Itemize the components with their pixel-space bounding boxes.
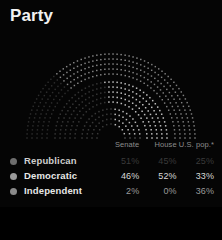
arc-dot	[124, 54, 125, 55]
arc-dot	[60, 83, 61, 84]
arc-dot	[146, 133, 148, 135]
party-color-dot-icon	[10, 173, 17, 180]
arc-dot	[88, 77, 89, 78]
arc-dot	[108, 81, 110, 83]
arc-dot	[171, 95, 172, 96]
arc-dot	[151, 64, 152, 65]
arc-dot	[120, 54, 121, 55]
arc-dot	[84, 68, 85, 69]
arc-dot	[112, 53, 113, 54]
legend-row[interactable]: Republican51%45%25%	[10, 153, 214, 168]
arc-dot	[124, 137, 126, 139]
arc-dot	[80, 117, 82, 119]
arc-dot	[87, 133, 89, 135]
arc-dot	[81, 95, 83, 97]
arc-dot	[132, 77, 133, 78]
arc-dot	[31, 133, 32, 134]
party-color-dot-icon	[10, 158, 17, 165]
arc-dot	[47, 82, 48, 83]
arc-dot	[42, 109, 43, 110]
arc-dot	[175, 92, 176, 93]
arc-dot	[43, 106, 44, 107]
arc-dot	[64, 93, 65, 94]
arc-dot	[45, 102, 46, 103]
arc-dot	[57, 79, 58, 80]
arc-dot	[108, 96, 110, 98]
arc-dot	[120, 74, 121, 75]
arc-dot	[59, 133, 61, 135]
arc-dot	[169, 92, 170, 93]
arc-dot	[96, 94, 98, 96]
arc-dot	[43, 121, 44, 122]
arc-dot	[53, 99, 54, 100]
arc-dot	[69, 117, 71, 119]
arc-dot	[153, 110, 155, 112]
arc-dot	[116, 97, 118, 99]
arc-dot	[95, 119, 97, 121]
arc-dot	[148, 121, 150, 123]
arc-dot	[106, 109, 108, 111]
arc-dot	[112, 63, 113, 64]
arc-dot	[112, 58, 113, 59]
legend-value-us-pop: 36%	[177, 183, 214, 198]
arc-dot	[66, 125, 68, 127]
arc-dot	[150, 114, 152, 116]
arc-dot	[41, 137, 42, 138]
party-legend: Senate House U.S. pop.* Republican51%45%…	[0, 140, 222, 198]
arc-dot	[174, 129, 175, 130]
arc-dot	[54, 133, 56, 135]
party-name: Democratic	[24, 170, 77, 181]
arc-dot	[145, 129, 147, 131]
arc-dot	[47, 99, 48, 100]
arc-dot	[154, 84, 155, 85]
arc-dot	[61, 89, 62, 90]
column-header-house: House	[139, 140, 176, 153]
arc-dot	[125, 125, 127, 127]
arc-dot	[97, 133, 99, 135]
arc-dot	[140, 117, 142, 119]
arc-dot	[161, 129, 163, 131]
arc-dot	[38, 121, 39, 122]
arc-dot	[157, 117, 159, 119]
arc-dot	[104, 64, 105, 65]
arc-dot	[120, 87, 122, 89]
arc-dot	[53, 76, 54, 77]
arc-dot	[66, 78, 67, 79]
arc-dot	[193, 121, 194, 122]
arc-dot	[118, 126, 120, 128]
legend-row[interactable]: Democratic46%52%33%	[10, 168, 214, 183]
arc-dot	[157, 86, 158, 87]
arc-dot	[156, 137, 158, 139]
arc-dot	[112, 91, 114, 93]
arc-dot	[46, 137, 47, 138]
arc-dot	[144, 77, 145, 78]
arc-dot	[112, 81, 114, 83]
legend-value-senate: 51%	[102, 153, 139, 168]
arc-dot	[121, 103, 123, 105]
arc-dot	[132, 56, 133, 57]
legend-party-label: Independent	[10, 183, 102, 198]
arc-dot	[154, 72, 155, 73]
arc-dot	[66, 72, 67, 73]
arc-dot	[70, 87, 71, 88]
arc-dot	[179, 137, 180, 138]
arc-dot	[73, 62, 74, 63]
arc-dot	[63, 74, 64, 75]
arc-dot	[40, 91, 41, 92]
arc-dot	[96, 99, 98, 101]
arc-dot	[104, 82, 106, 84]
arc-dot	[58, 117, 60, 119]
arc-dot	[88, 91, 90, 93]
arc-dot	[138, 114, 140, 116]
arc-dot	[132, 86, 134, 88]
legend-row[interactable]: Independent2%0%36%	[10, 183, 214, 198]
arc-dot	[147, 85, 148, 86]
arc-dot	[47, 125, 48, 126]
arc-dot	[30, 113, 31, 114]
arc-dot	[59, 137, 61, 139]
arc-dot	[155, 103, 157, 105]
arc-dot	[98, 111, 100, 113]
arc-dot	[63, 80, 64, 81]
arc-dot	[84, 125, 86, 127]
arc-dot	[116, 54, 117, 55]
